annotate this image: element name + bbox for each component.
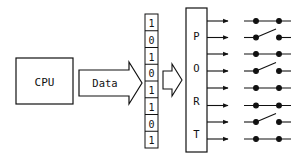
switch-closed-icon bbox=[244, 137, 291, 142]
register-bit: 1 bbox=[148, 135, 154, 146]
switch-open-icon bbox=[244, 63, 291, 74]
register-bit: 1 bbox=[148, 85, 154, 96]
register-bit: 1 bbox=[148, 18, 154, 29]
register-to-port-arrow bbox=[163, 64, 182, 96]
cpu-port-diagram: CPU Data 1 0 1 0 1 1 0 1 P O R T bbox=[0, 0, 307, 160]
switch-closed-icon bbox=[244, 52, 291, 57]
cpu-block: CPU bbox=[16, 58, 73, 104]
port-output-arrows bbox=[207, 21, 228, 139]
port-letter: O bbox=[193, 62, 199, 74]
port-block: P O R T bbox=[186, 8, 207, 152]
switch-array bbox=[244, 19, 291, 142]
port-letter: R bbox=[193, 95, 200, 107]
switch-open-icon bbox=[244, 114, 291, 125]
cpu-label: CPU bbox=[35, 76, 55, 89]
register-bit: 1 bbox=[148, 52, 154, 63]
switch-closed-icon bbox=[244, 19, 291, 24]
switch-closed-icon bbox=[244, 103, 291, 108]
port-letter: P bbox=[193, 30, 199, 42]
register-bit: 0 bbox=[148, 35, 154, 46]
data-bus-arrow: Data bbox=[79, 62, 142, 104]
switch-closed-icon bbox=[244, 86, 291, 91]
register-bit: 0 bbox=[148, 68, 154, 79]
data-label: Data bbox=[92, 77, 117, 89]
data-register: 1 0 1 0 1 1 0 1 bbox=[145, 14, 158, 148]
port-letter: T bbox=[193, 128, 200, 140]
register-bit: 1 bbox=[148, 102, 154, 113]
register-bit: 0 bbox=[148, 119, 154, 130]
switch-open-icon bbox=[244, 29, 291, 40]
